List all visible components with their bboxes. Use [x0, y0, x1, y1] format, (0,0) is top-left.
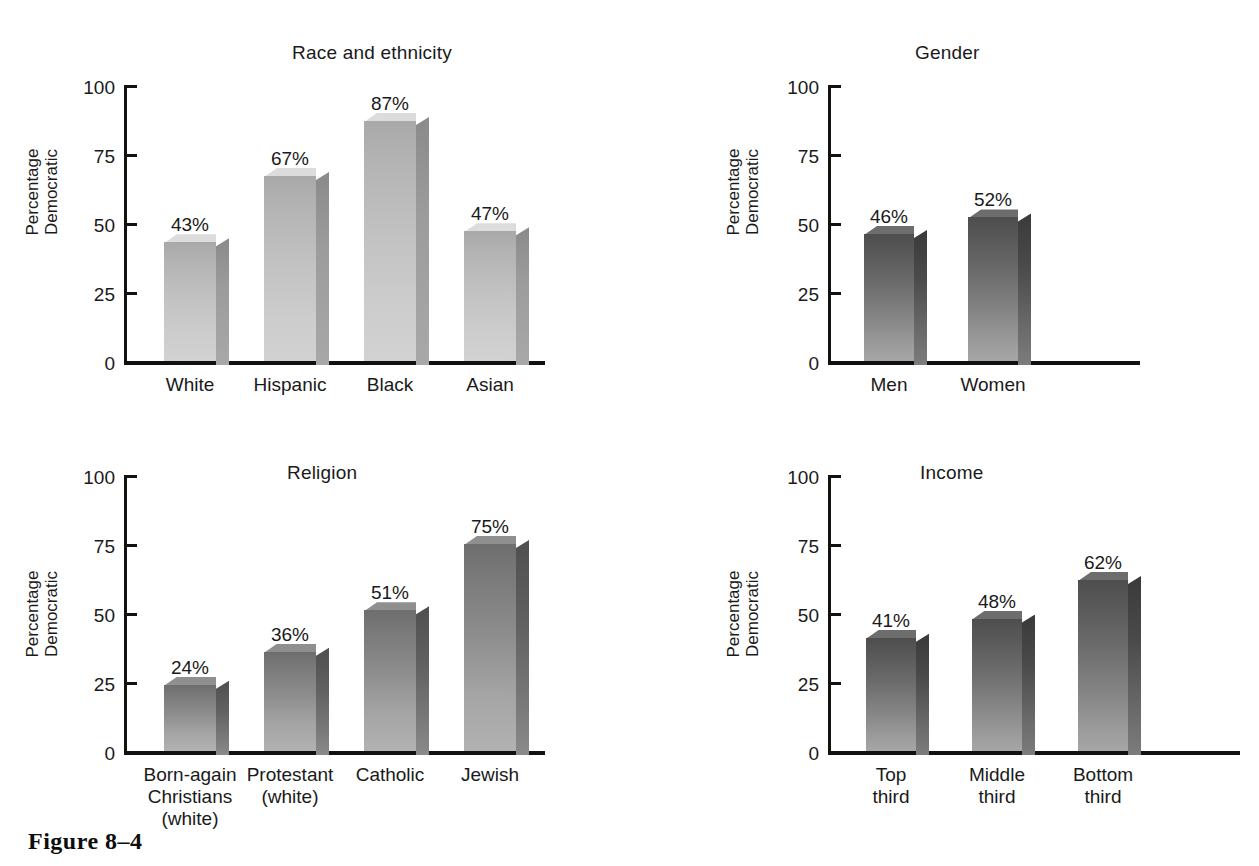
y-tick-label-50: 50 [798, 605, 819, 624]
bar-front-face [164, 685, 216, 751]
y-axis-label-line2: Democratic [42, 117, 61, 267]
category-label-line: third [873, 786, 910, 808]
bar-front-face [968, 217, 1018, 361]
bar-value-label: 47% [471, 204, 509, 223]
y-tick-100: 100 [828, 85, 841, 88]
category-label-bottom-third: Bottom third [1073, 764, 1133, 808]
y-tick-50: 50 [124, 223, 137, 226]
category-label-black: Black [367, 374, 413, 396]
category-label-line: (white) [144, 808, 237, 830]
bar-front-face [264, 176, 316, 361]
bar-side-face [516, 540, 529, 755]
y-axis-label-line2: Democratic [42, 539, 61, 689]
y-tick-label-100: 100 [787, 467, 819, 486]
figure-caption: Figure 8–4 [28, 828, 143, 854]
category-label-born-again-christians-white: Born-again Christians (white) [144, 764, 237, 830]
y-tick-label-75: 75 [94, 146, 115, 165]
bar-value-label: 62% [1084, 553, 1122, 572]
y-tick-label-0: 0 [808, 743, 819, 762]
bar-middle-third: 48% Middle third [972, 619, 1022, 751]
y-tick-label-0: 0 [104, 743, 115, 762]
y-tick-label-25: 25 [798, 284, 819, 303]
y-tick-label-25: 25 [94, 674, 115, 693]
bar-front-face [264, 652, 316, 751]
bar-value-label: 52% [974, 190, 1012, 209]
category-label-men: Men [871, 374, 908, 396]
y-tick-25: 25 [124, 292, 137, 295]
category-label-middle-third: Middle third [969, 764, 1025, 808]
category-label-women: Women [960, 374, 1025, 396]
category-label-catholic: Catholic [356, 764, 425, 786]
plot-area-race-and-ethnicity: 100 75 50 25 0 43% White 67% Hispanic [124, 85, 545, 361]
category-label-protestant-white: Protestant (white) [247, 764, 334, 808]
bar-men: 46% Men [864, 234, 914, 361]
category-label-line: Christians [144, 786, 237, 808]
chart-panel-religion: Religion Percentage Democratic 100 75 50… [0, 435, 600, 866]
bar-jewish: 75% Jewish [464, 544, 516, 751]
y-tick-25: 25 [124, 682, 137, 685]
x-axis-line [124, 751, 545, 755]
bar-hispanic: 67% Hispanic [264, 176, 316, 361]
y-tick-25: 25 [828, 682, 841, 685]
y-tick-label-75: 75 [798, 146, 819, 165]
bar-value-label: 41% [872, 611, 910, 630]
y-tick-75: 75 [828, 154, 841, 157]
bar-front-face [464, 544, 516, 751]
y-axis-label-line2: Democratic [743, 117, 762, 267]
bar-value-label: 87% [371, 94, 409, 113]
bar-side-face [416, 606, 429, 755]
y-tick-label-100: 100 [83, 77, 115, 96]
y-axis-label-race-and-ethnicity: Percentage Democratic [23, 117, 61, 267]
y-tick-75: 75 [828, 544, 841, 547]
y-tick-25: 25 [828, 292, 841, 295]
y-axis-label-line1: Percentage [724, 149, 743, 236]
x-axis-line [828, 361, 1140, 365]
bar-value-label: 43% [171, 215, 209, 234]
y-tick-50: 50 [124, 613, 137, 616]
category-label-line: third [969, 786, 1025, 808]
y-tick-100: 100 [124, 475, 137, 478]
bar-side-face [1022, 615, 1035, 755]
bar-front-face [364, 121, 416, 361]
bar-front-face [364, 610, 416, 751]
y-axis-label-line1: Percentage [724, 571, 743, 658]
bar-protestant-white: 36% Protestant (white) [264, 652, 316, 751]
y-tick-label-0: 0 [808, 353, 819, 372]
bar-side-face [1018, 213, 1031, 365]
y-tick-label-100: 100 [787, 77, 819, 96]
y-axis-label-line1: Percentage [23, 571, 42, 658]
y-axis-label-line1: Percentage [23, 149, 42, 236]
bar-top-third: 41% Top third [866, 638, 916, 751]
y-tick-100: 100 [828, 475, 841, 478]
bar-black: 87% Black [364, 121, 416, 361]
bar-catholic: 51% Catholic [364, 610, 416, 751]
chart-title-gender: Gender [915, 42, 980, 64]
chart-panel-income: Income Percentage Democratic 100 75 50 2… [620, 435, 1259, 866]
category-label-line: Bottom [1073, 764, 1133, 786]
category-label-jewish: Jewish [461, 764, 519, 786]
y-tick-label-25: 25 [798, 674, 819, 693]
bar-asian: 47% Asian [464, 231, 516, 361]
plot-area-income: 100 75 50 25 0 41% Top third 4 [828, 475, 1240, 751]
chart-panel-gender: Gender Percentage Democratic 100 75 50 2… [620, 0, 1259, 430]
y-axis-label-line2: Democratic [743, 539, 762, 689]
bar-front-face [1078, 580, 1128, 751]
bar-front-face [972, 619, 1022, 751]
category-label-line: Born-again [144, 764, 237, 786]
category-label-white: White [166, 374, 215, 396]
category-label-top-third: Top third [873, 764, 910, 808]
bar-value-label: 24% [171, 658, 209, 677]
y-tick-50: 50 [828, 223, 841, 226]
y-tick-label-75: 75 [94, 536, 115, 555]
bar-value-label: 75% [471, 517, 509, 536]
category-label-hispanic: Hispanic [254, 374, 327, 396]
category-label-line: Protestant [247, 764, 334, 786]
y-tick-75: 75 [124, 544, 137, 547]
category-label-line: Catholic [356, 764, 425, 786]
y-tick-label-100: 100 [83, 467, 115, 486]
bar-side-face [216, 238, 229, 365]
bar-value-label: 67% [271, 149, 309, 168]
bar-value-label: 36% [271, 625, 309, 644]
y-tick-label-25: 25 [94, 284, 115, 303]
bar-front-face [164, 242, 216, 361]
